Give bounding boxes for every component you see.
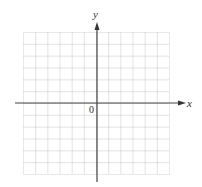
x-axis-arrow-icon [178,101,186,106]
origin-label: 0 [89,104,94,115]
x-axis-label: x [186,97,192,109]
coordinate-plane: x y 0 [0,0,202,187]
y-axis-arrow-icon [95,22,100,30]
y-axis-label: y [92,8,98,20]
